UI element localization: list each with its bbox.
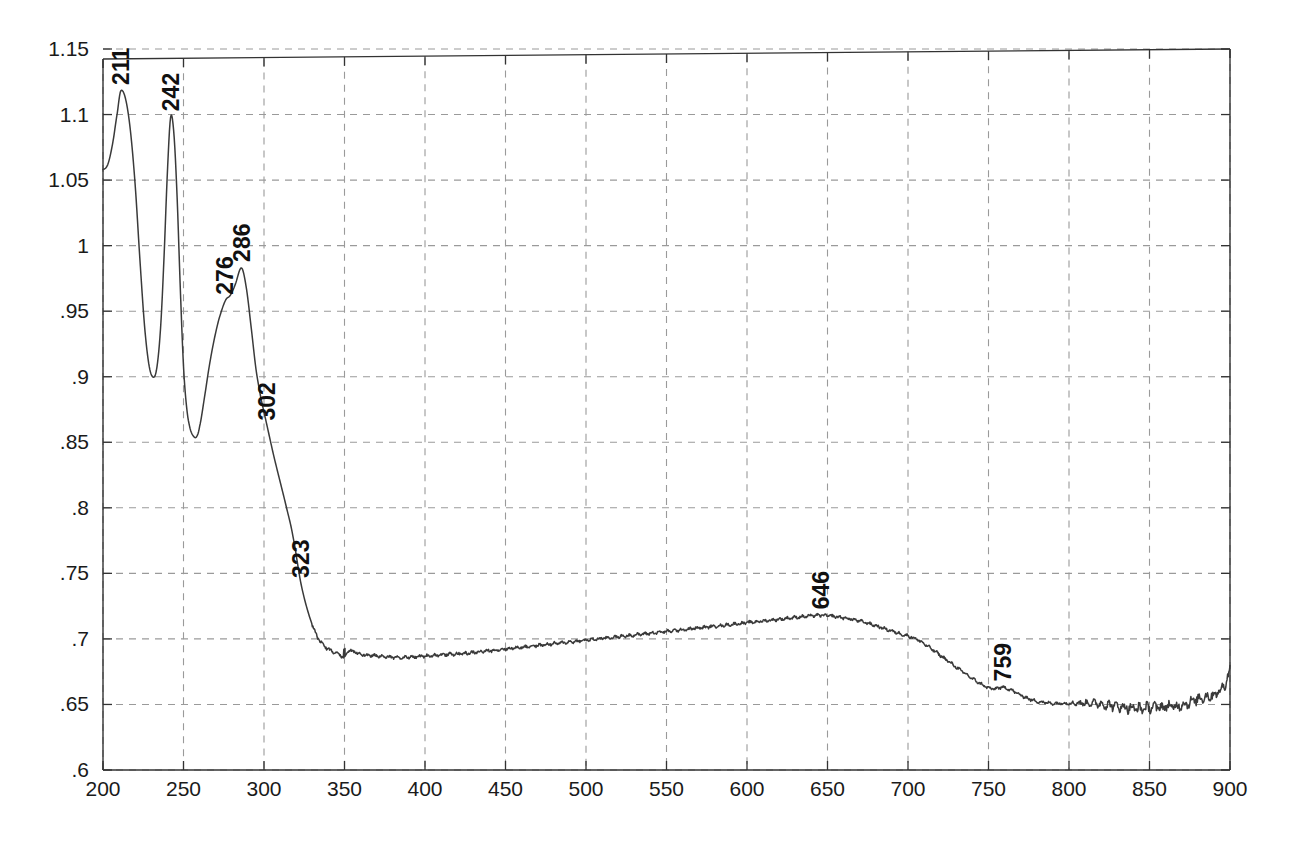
y-tick-label: .9 xyxy=(71,365,89,388)
y-axis-tick-labels: .6.65.7.75.8.85.9.9511.051.11.15 xyxy=(48,37,89,781)
x-tick-label: 350 xyxy=(327,777,362,800)
y-tick-label: .6 xyxy=(71,758,89,781)
y-tick-label: .95 xyxy=(60,299,89,322)
x-tick-label: 500 xyxy=(568,777,603,800)
y-tick-label: .7 xyxy=(71,627,89,650)
x-tick-label: 250 xyxy=(166,777,201,800)
x-tick-label: 400 xyxy=(407,777,442,800)
x-tick-label: 700 xyxy=(890,777,925,800)
x-tick-label: 850 xyxy=(1132,777,1167,800)
y-tick-label: .75 xyxy=(60,561,89,584)
x-tick-label: 450 xyxy=(488,777,523,800)
peak-label: 323 xyxy=(288,540,314,578)
x-tick-label: 900 xyxy=(1212,777,1247,800)
x-tick-label: 600 xyxy=(729,777,764,800)
spectrum-plot-svg: 2002503003504004505005506006507007508008… xyxy=(0,0,1300,841)
x-tick-label: 800 xyxy=(1051,777,1086,800)
x-tick-label: 550 xyxy=(649,777,684,800)
peak-label: 759 xyxy=(990,643,1016,681)
x-tick-label: 200 xyxy=(85,777,120,800)
y-tick-label: 1.1 xyxy=(60,103,89,126)
peak-label: 286 xyxy=(229,224,255,262)
peak-label: 211 xyxy=(108,48,134,85)
x-tick-label: 750 xyxy=(971,777,1006,800)
y-tick-label: .85 xyxy=(60,430,89,453)
peak-label: 242 xyxy=(158,73,184,111)
y-tick-label: 1 xyxy=(77,234,89,257)
x-axis-tick-labels: 2002503003504004505005506006507007508008… xyxy=(85,777,1247,800)
y-tick-label: 1.15 xyxy=(48,37,89,60)
peak-label: 302 xyxy=(254,382,280,420)
peak-label: 646 xyxy=(808,571,834,609)
y-tick-label: 1.05 xyxy=(48,168,89,191)
x-tick-label: 300 xyxy=(246,777,281,800)
y-tick-label: .65 xyxy=(60,692,89,715)
x-tick-label: 650 xyxy=(810,777,845,800)
spectrum-chart: 2002503003504004505005506006507007508008… xyxy=(0,0,1300,841)
y-tick-label: .8 xyxy=(71,496,89,519)
peak-annotations: 211242276286302323646759 xyxy=(108,48,1016,682)
